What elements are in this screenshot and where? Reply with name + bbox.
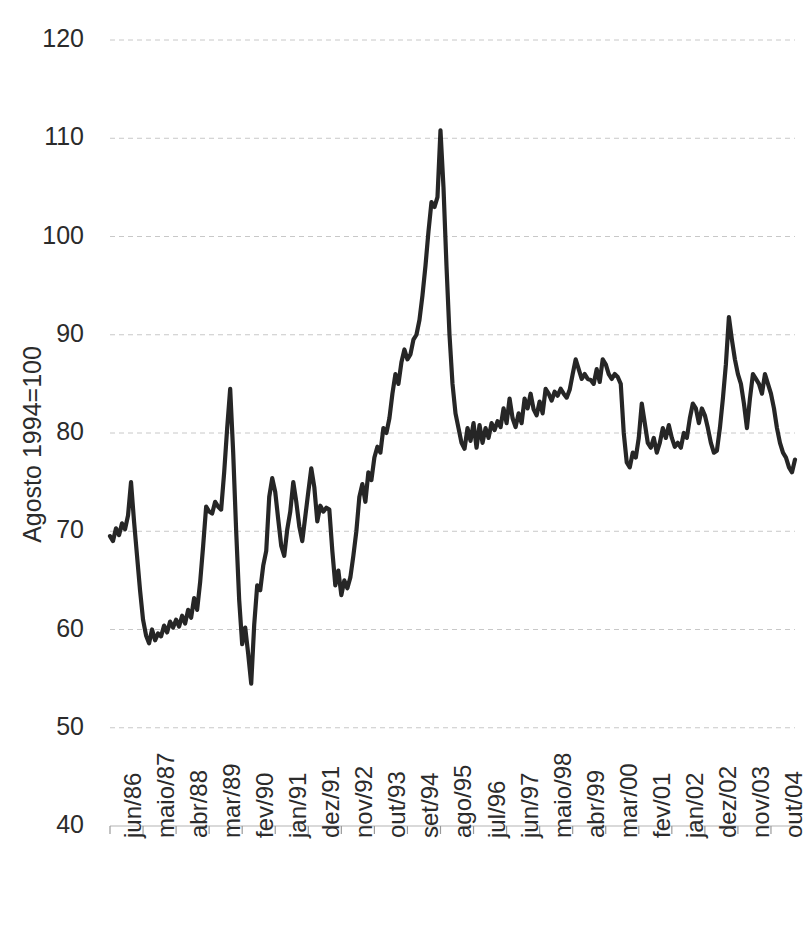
x-tick-label-mar-89: mar/89 xyxy=(218,763,246,838)
x-tick-label-maio-87: maio/87 xyxy=(152,753,180,838)
x-tick-label-abr-99: abr/99 xyxy=(582,770,610,838)
y-tick-label-110: 110 xyxy=(4,122,84,151)
y-tick-label-40: 40 xyxy=(4,810,84,839)
chart-container: Agosto 1994=100 405060708090100110120 ju… xyxy=(0,0,806,933)
y-tick-label-70: 70 xyxy=(4,515,84,544)
x-tick-label-nov-92: nov/92 xyxy=(350,766,378,838)
y-tick-label-60: 60 xyxy=(4,614,84,643)
x-tick-label-maio-98: maio/98 xyxy=(549,753,577,838)
x-tick-label-jul-96: jul/96 xyxy=(483,781,511,838)
x-tick-label-jun-86: jun/86 xyxy=(119,773,147,838)
x-tick-label-set-94: set/94 xyxy=(416,773,444,838)
x-tick-label-jan-02: jan/02 xyxy=(681,773,709,838)
x-tick-label-fev-01: fev/01 xyxy=(648,773,676,838)
x-tick-label-jan-91: jan/91 xyxy=(284,773,312,838)
x-tick-label-nov-03: nov/03 xyxy=(747,766,775,838)
data-series-line xyxy=(110,130,795,683)
gridlines-group xyxy=(110,40,795,826)
y-tick-label-100: 100 xyxy=(4,221,84,250)
x-tick-label-abr-88: abr/88 xyxy=(185,770,213,838)
x-tick-label-ago-95: ago/95 xyxy=(449,765,477,838)
y-tick-label-80: 80 xyxy=(4,417,84,446)
y-tick-label-90: 90 xyxy=(4,319,84,348)
y-tick-label-50: 50 xyxy=(4,712,84,741)
x-tick-label-mar-00: mar/00 xyxy=(615,763,643,838)
x-tick-label-out-93: out/93 xyxy=(383,771,411,838)
x-tick-label-fev-90: fev/90 xyxy=(251,773,279,838)
y-tick-label-120: 120 xyxy=(4,24,84,53)
x-tick-label-jun-97: jun/97 xyxy=(516,773,544,838)
x-tick-label-dez-91: dez/91 xyxy=(317,766,345,838)
x-tick-label-dez-02: dez/02 xyxy=(714,766,742,838)
x-tick-label-out-04: out/04 xyxy=(780,771,806,838)
